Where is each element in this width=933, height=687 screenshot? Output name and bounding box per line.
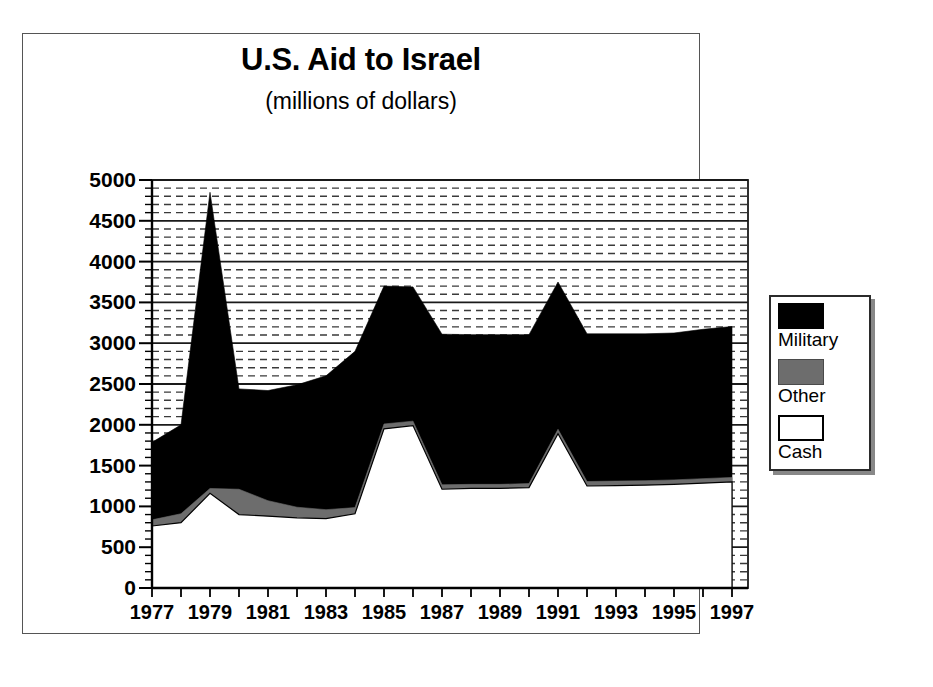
legend-swatch-military-icon xyxy=(778,303,824,329)
chart-legend: Military Other Cash xyxy=(769,295,871,471)
x-tick-label: 1977 xyxy=(122,602,182,622)
legend-item-other: Other xyxy=(778,359,826,406)
y-tick-label: 5000 xyxy=(66,169,136,190)
y-tick-label: 0 xyxy=(66,577,136,598)
legend-item-military: Military xyxy=(778,303,838,350)
y-tick-label: 4500 xyxy=(66,210,136,231)
legend-label-cash: Cash xyxy=(778,442,824,462)
x-tick-label: 1981 xyxy=(238,602,298,622)
y-tick-label: 3000 xyxy=(66,332,136,353)
legend-label-military: Military xyxy=(778,330,838,350)
x-tick-label: 1983 xyxy=(296,602,356,622)
x-tick-label: 1997 xyxy=(702,602,762,622)
y-tick-label: 4000 xyxy=(66,251,136,272)
x-tick-label: 1991 xyxy=(528,602,588,622)
x-tick-label: 1985 xyxy=(354,602,414,622)
y-tick-label: 2500 xyxy=(66,373,136,394)
y-tick-label: 500 xyxy=(66,536,136,557)
legend-swatch-cash-icon xyxy=(778,415,824,441)
x-tick-label: 1989 xyxy=(470,602,530,622)
y-tick-label: 2000 xyxy=(66,414,136,435)
legend-label-other: Other xyxy=(778,386,826,406)
x-tick-label: 1987 xyxy=(412,602,472,622)
x-tick-label: 1979 xyxy=(180,602,240,622)
legend-swatch-other-icon xyxy=(778,359,824,385)
chart-figure: U.S. Aid to Israel (millions of dollars)… xyxy=(0,0,933,687)
y-tick-label: 1000 xyxy=(66,495,136,516)
y-tick-label: 1500 xyxy=(66,455,136,476)
legend-item-cash: Cash xyxy=(778,415,824,462)
x-tick-label: 1993 xyxy=(586,602,646,622)
y-tick-label: 3500 xyxy=(66,291,136,312)
x-tick-label: 1995 xyxy=(644,602,704,622)
